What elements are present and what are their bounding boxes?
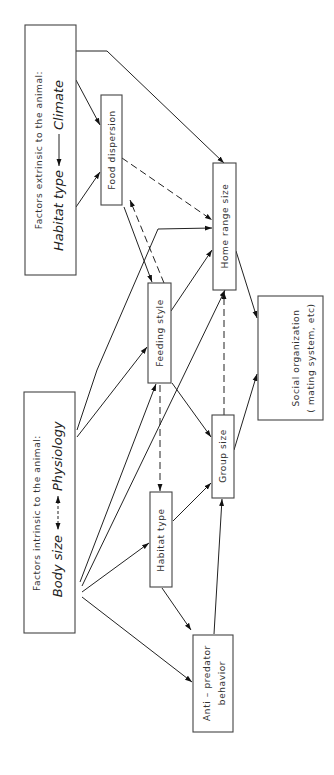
node-extrinsic-factors: Factors extrinsic to the animal: Habitat…	[25, 25, 76, 275]
edge-anti-predator-to-group-size	[214, 499, 222, 634]
edge-feeding-style-to-group-size	[172, 383, 211, 437]
node-feeding-style: Feeding style	[148, 283, 171, 383]
intrinsic-title: Factors intrinsic to the animal:	[32, 435, 42, 591]
anti-predator-label-2: behavior	[217, 661, 227, 705]
edge-body-size-to-feeding-style	[80, 384, 156, 582]
node-anti-predator: Anti – predator behavior	[193, 635, 233, 732]
intrinsic-body-size-term: Body size	[50, 535, 65, 597]
edge-intrinsic-to-home-range	[77, 228, 212, 430]
home-range-label: Home range size	[220, 184, 230, 269]
edge-habitat-type-to-anti-predator	[162, 588, 191, 630]
anti-predator-box	[193, 635, 233, 732]
node-group-size: Group size	[212, 415, 234, 498]
extrinsic-climate-term: Climate	[51, 80, 66, 130]
node-social-organization: Social organization ( mating system, etc…	[258, 296, 323, 420]
social-org-label-1: Social organization	[291, 310, 301, 407]
node-home-range-size: Home range size	[213, 163, 236, 290]
edge-intrinsic-to-feeding-style	[77, 347, 147, 437]
edge-home-range-to-social-org	[236, 251, 257, 318]
diagram-canvas: Factors extrinsic to the animal: Habitat…	[0, 0, 334, 775]
edge-body-size-to-anti-predator	[82, 597, 192, 682]
edge-extrinsic-to-food-dispersion-2	[76, 172, 100, 207]
edge-extrinsic-to-food-dispersion-1	[76, 80, 100, 125]
edge-feeding-style-to-food-dispersion	[130, 200, 164, 283]
extrinsic-habitat-term: Habitat type	[51, 170, 66, 251]
extrinsic-title: Factors extrinsic to the animal:	[34, 71, 44, 230]
edge-feeding-style-to-home-range	[171, 250, 212, 311]
node-intrinsic-factors: Factors intrinsic to the animal: Body si…	[24, 392, 75, 633]
social-org-label-2: ( mating system, etc)	[306, 303, 316, 412]
edge-food-dispersion-to-home-range	[122, 158, 212, 220]
edge-extrinsic-to-home-range	[76, 51, 224, 163]
edge-habitat-type-to-group-size	[173, 483, 211, 521]
intrinsic-physiology-term: Physiology	[50, 421, 65, 491]
edge-group-size-to-social-org	[234, 374, 257, 450]
node-food-dispersion: Food dispersion	[101, 95, 122, 205]
anti-predator-label-1: Anti – predator	[202, 645, 212, 721]
food-dispersion-label: Food dispersion	[107, 110, 117, 190]
group-size-label: Group size	[218, 429, 228, 483]
feeding-style-label: Feeding style	[155, 299, 165, 367]
node-habitat-type: Habitat type	[150, 492, 172, 587]
habitat-type-label: Habitat type	[156, 508, 166, 571]
